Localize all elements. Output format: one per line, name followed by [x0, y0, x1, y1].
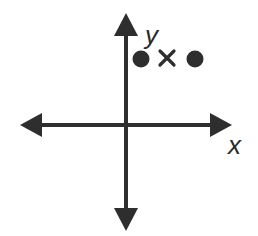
coordinate-plane: y x: [0, 0, 258, 236]
point-x-marker-icon: [160, 51, 174, 65]
y-axis-label: y: [143, 20, 160, 50]
y-axis-up-arrow-icon: [114, 13, 138, 36]
x-axis-left-arrow-icon: [20, 113, 42, 137]
point-dot-left: [133, 51, 150, 68]
x-axis-label: x: [226, 130, 242, 160]
point-dot-right: [187, 51, 204, 68]
y-axis: [114, 13, 138, 231]
y-axis-down-arrow-icon: [114, 208, 138, 231]
